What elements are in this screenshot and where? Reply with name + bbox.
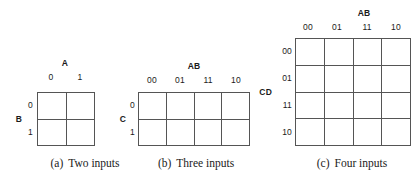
kmap-three-input-row-label-1: 1: [130, 128, 135, 137]
kmap-cell[interactable]: [382, 66, 411, 93]
kmap-two-input-col-label-0: 0: [49, 73, 54, 82]
caption-text: Two inputs: [68, 157, 119, 169]
kmap-three-input-grid: [138, 92, 250, 146]
kmap-four-input-col-label-00: 00: [303, 23, 313, 32]
caption-tag: (a): [50, 157, 63, 169]
kmap-cell[interactable]: [139, 120, 167, 147]
caption-tag: (b): [158, 157, 171, 169]
kmap-three-input-col-label-01: 01: [175, 76, 185, 85]
kmap-cell[interactable]: [38, 120, 67, 147]
kmap-cell[interactable]: [167, 120, 195, 147]
kmap-four-input-col-label-10: 10: [391, 23, 401, 32]
kmap-cell[interactable]: [296, 119, 325, 146]
kmap-cell[interactable]: [195, 120, 223, 147]
kmap-cell[interactable]: [382, 93, 411, 120]
kmap-three-input-col-label-11: 11: [203, 76, 212, 85]
kmap-two-input-row-label-0: 0: [28, 101, 33, 110]
kmap-four-input-column-variable: AB: [358, 9, 371, 18]
kmap-cell[interactable]: [222, 120, 250, 147]
kmap-cell[interactable]: [325, 39, 354, 66]
kmap-two-input-col-label-1: 1: [78, 73, 83, 82]
kmap-four-input-caption: (c)Four inputs: [317, 157, 387, 170]
kmap-cell[interactable]: [222, 93, 250, 120]
kmap-cell[interactable]: [38, 93, 67, 120]
kmap-cell[interactable]: [382, 119, 411, 146]
kmap-four-input-row-label-00: 00: [282, 47, 292, 56]
kmap-cell[interactable]: [296, 39, 325, 66]
kmap-four-input-row-label-10: 10: [282, 128, 292, 137]
kmap-cell[interactable]: [67, 93, 96, 120]
kmap-two-input-caption: (a)Two inputs: [50, 157, 119, 170]
kmap-cell[interactable]: [382, 39, 411, 66]
kmap-cell[interactable]: [195, 93, 223, 120]
caption-text: Three inputs: [176, 157, 234, 169]
kmap-cell[interactable]: [67, 120, 96, 147]
kmap-cell[interactable]: [167, 93, 195, 120]
kmap-four-input-row-variable: CD: [259, 88, 272, 97]
kmap-four-input-grid: [295, 38, 411, 146]
kmap-three-input-row-label-0: 0: [130, 101, 135, 110]
caption-text: Four inputs: [335, 157, 388, 169]
kmap-three-input-col-label-00: 00: [147, 76, 157, 85]
karnaugh-map-figure: A 0 1 B 0 1 (a)Two inputs AB 00 01 11 10…: [0, 0, 419, 181]
kmap-four-input-row-label-11: 11: [283, 101, 292, 110]
caption-tag: (c): [317, 157, 330, 169]
kmap-three-input-caption: (b)Three inputs: [158, 157, 234, 170]
kmap-two-input-row-variable: B: [16, 115, 22, 124]
kmap-cell[interactable]: [325, 119, 354, 146]
kmap-cell[interactable]: [325, 93, 354, 120]
kmap-two-input-row-label-1: 1: [28, 128, 33, 137]
kmap-cell[interactable]: [139, 93, 167, 120]
kmap-three-input-column-variable: AB: [188, 62, 201, 71]
kmap-four-input-col-label-01: 01: [332, 23, 342, 32]
kmap-two-input-column-variable: A: [62, 59, 68, 68]
kmap-cell[interactable]: [325, 66, 354, 93]
kmap-cell[interactable]: [354, 39, 383, 66]
kmap-three-input-col-label-10: 10: [231, 76, 241, 85]
kmap-cell[interactable]: [296, 93, 325, 120]
kmap-four-input-row-label-01: 01: [282, 74, 292, 83]
kmap-cell[interactable]: [296, 66, 325, 93]
kmap-two-input-grid: [37, 92, 95, 146]
kmap-cell[interactable]: [354, 119, 383, 146]
kmap-four-input-col-label-11: 11: [362, 23, 371, 32]
kmap-cell[interactable]: [354, 93, 383, 120]
kmap-three-input-row-variable: C: [120, 115, 126, 124]
kmap-cell[interactable]: [354, 66, 383, 93]
